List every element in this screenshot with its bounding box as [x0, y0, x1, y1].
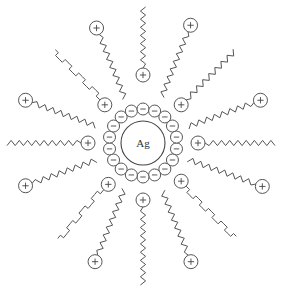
- anion-minus: [166, 120, 178, 132]
- anion-minus: [104, 143, 116, 155]
- cation-head-outer: [90, 21, 104, 35]
- cation-head-outer: [184, 255, 198, 269]
- hydrocarbon-tail: [186, 49, 234, 100]
- anion-minus: [170, 131, 182, 143]
- cation-head-inner: [101, 177, 115, 191]
- anion-minus: [170, 143, 182, 155]
- cation-head-inner: [174, 98, 188, 112]
- anion-minus: [137, 103, 149, 115]
- silver-core: Ag: [121, 121, 165, 165]
- cation-head-outer: [19, 93, 33, 107]
- cation-head-inner: [174, 174, 188, 188]
- anion-minus: [104, 131, 116, 143]
- hydrocarbon-tail: [161, 32, 189, 98]
- cation-head-outer: [19, 179, 33, 193]
- hydrocarbon-tail: [189, 103, 254, 129]
- cation-head-outer: [255, 179, 269, 193]
- anion-minus: [108, 154, 120, 166]
- cation-head-outer: [184, 18, 198, 32]
- hydrocarbon-tail: [97, 188, 125, 255]
- cation-head-inner: [98, 98, 112, 112]
- cation-head-inner: [81, 136, 95, 150]
- ag-label: Ag: [136, 137, 150, 149]
- cation-head-outer: [253, 93, 267, 107]
- cation-head-inner: [136, 68, 150, 82]
- hydrocarbon-tail: [58, 190, 104, 239]
- cation-head-outer: [88, 255, 102, 269]
- hydrocarbon-tail: [140, 207, 145, 285]
- hydrocarbon-tail: [7, 140, 81, 145]
- hydrocarbon-tail: [187, 158, 256, 185]
- anion-minus: [149, 169, 161, 181]
- hydrocarbon-tail: [55, 50, 100, 100]
- hydrocarbon-tail: [32, 102, 95, 129]
- hydrocarbon-tail: [32, 159, 97, 183]
- hydrocarbon-tail: [186, 186, 236, 236]
- cation-head-inner: [191, 136, 205, 150]
- hydrocarbon-tail: [162, 190, 189, 255]
- hydrocarbon-tail: [99, 35, 126, 100]
- anion-minus: [137, 171, 149, 183]
- cation-head-inner: [136, 193, 150, 207]
- silver-nanoparticle-micelle-diagram: Ag: [0, 0, 288, 289]
- hydrocarbon-tail: [140, 7, 145, 68]
- hydrocarbon-tail: [205, 140, 275, 145]
- anion-minus: [125, 105, 137, 117]
